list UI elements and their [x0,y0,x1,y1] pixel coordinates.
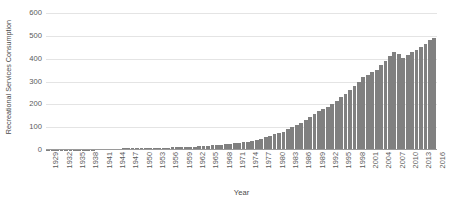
bar [317,111,321,150]
x-tick-label: 2001 [372,152,380,186]
x-tick-label: 1956 [172,152,180,186]
x-tick-label: 1953 [159,152,167,186]
x-tick-label: 1986 [305,152,313,186]
x-tick-label: 1959 [186,152,194,186]
bar [339,97,343,150]
y-tick-label: 400 [16,55,42,63]
x-tick-label: 1965 [212,152,220,186]
bar [392,52,396,150]
bar [366,75,370,150]
x-tick-label: 1929 [52,152,60,186]
x-tick-label: 1947 [132,152,140,186]
bar [397,54,401,150]
x-tick-label: 1977 [265,152,273,186]
x-tick-label: 1962 [199,152,207,186]
x-tick-label: 1950 [146,152,154,186]
bar [290,127,294,150]
y-axis-tick-labels: 0100200300400500600 [16,13,42,150]
x-tick-label: 1974 [252,152,260,186]
bar [282,132,286,150]
bar [415,50,419,150]
bar [379,65,383,150]
x-axis-line [46,149,437,150]
bar [357,82,361,151]
bar [424,44,428,150]
bar [330,104,334,150]
x-axis-tick-labels: 1929193219351938194119441947195019531956… [46,152,437,186]
y-tick-label: 600 [16,9,42,17]
x-tick-label: 1938 [92,152,100,186]
x-tick-label: 2013 [425,152,433,186]
bar [348,90,352,150]
x-tick-label: 1971 [239,152,247,186]
y-tick-label: 500 [16,32,42,40]
bar [370,72,374,150]
bar [388,56,392,150]
bar [335,101,339,150]
bar [406,55,410,150]
bar [419,47,423,150]
bar [428,40,432,150]
x-tick-label: 1944 [119,152,127,186]
x-tick-label: 1992 [332,152,340,186]
y-tick-label: 0 [16,146,42,154]
x-axis-title: Year [46,188,437,197]
bar [344,94,348,150]
bar [313,114,317,150]
y-tick-label: 200 [16,100,42,108]
x-tick-label: 1941 [106,152,114,186]
x-tick-label: 1968 [226,152,234,186]
bar [295,125,299,150]
bar [384,61,388,151]
x-tick-label: 2004 [385,152,393,186]
y-tick-label: 300 [16,78,42,86]
bars-layer [46,13,437,150]
bar [304,120,308,150]
bar [277,133,281,150]
x-tick-label: 2016 [439,152,447,186]
bar [308,117,312,150]
x-tick-label: 1989 [319,152,327,186]
bar [321,109,325,150]
bar [401,58,405,150]
x-tick-label: 1935 [79,152,87,186]
plot-area [46,13,437,150]
x-tick-label: 1998 [359,152,367,186]
bar [410,52,414,150]
x-tick-label: 1995 [345,152,353,186]
x-tick-label: 1932 [66,152,74,186]
bar [361,77,365,150]
bar [432,38,436,150]
y-tick-label: 100 [16,123,42,131]
bar-chart: Recreational Services Consumption 010020… [0,0,450,205]
bar [375,70,379,150]
bar [353,86,357,150]
x-tick-label: 2007 [399,152,407,186]
y-axis-title: Recreational Services Consumption [2,2,16,152]
bar [286,129,290,150]
bar [299,123,303,150]
x-tick-label: 2010 [412,152,420,186]
bar [273,134,277,150]
x-tick-label: 1983 [292,152,300,186]
bar [326,107,330,150]
x-tick-label: 1980 [279,152,287,186]
bar [268,136,272,150]
